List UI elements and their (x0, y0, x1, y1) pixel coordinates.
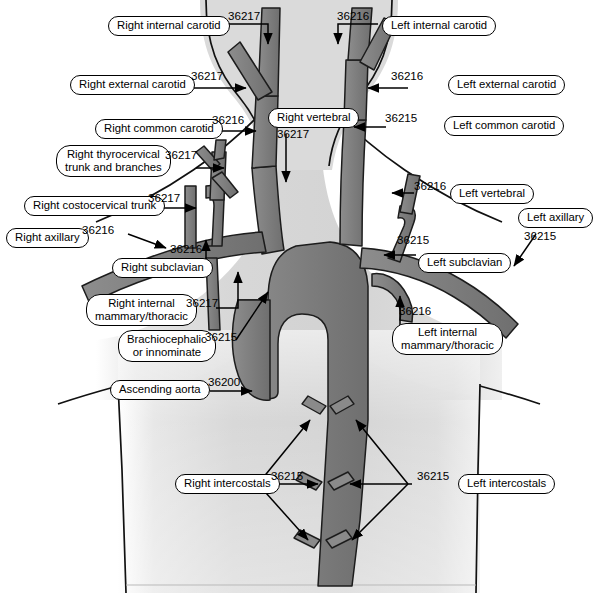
right-costocervical-vessel (185, 186, 196, 248)
code-ascending-aorta: 36200 (208, 376, 240, 388)
label-right-intercostals[interactable]: Right intercostals (175, 474, 280, 494)
code-right-external-carotid: 36217 (191, 70, 223, 82)
label-left-axillary[interactable]: Left axillary (518, 208, 593, 228)
code-left-vertebral: 36216 (414, 180, 446, 192)
label-right-internal-carotid[interactable]: Right internal carotid (108, 16, 230, 36)
label-left-subclavian[interactable]: Left subclavian (418, 253, 511, 273)
code-right-vertebral: 36217 (277, 128, 309, 140)
code-right-costocervical-trunk: 36217 (148, 192, 180, 204)
code-left-internal-carotid: 36216 (337, 10, 369, 22)
label-left-vertebral[interactable]: Left vertebral (450, 184, 534, 204)
label-right-thyrocervical-trunk[interactable]: Right thyrocervical trunk and branches (56, 145, 171, 177)
label-ascending-aorta[interactable]: Ascending aorta (110, 380, 210, 400)
label-right-costocervical-trunk[interactable]: Right costocervical trunk (24, 196, 165, 216)
label-brachiocephalic[interactable]: Brachiocephalic or innominate (118, 330, 216, 362)
code-right-common-carotid: 36216 (212, 114, 244, 126)
diagram-canvas: Right internal carotid 36217 Left intern… (0, 0, 595, 593)
left-common-carotid-vessel (340, 120, 366, 246)
label-right-common-carotid[interactable]: Right common carotid (95, 119, 223, 139)
label-right-subclavian[interactable]: Right subclavian (112, 258, 213, 278)
label-left-external-carotid[interactable]: Left external carotid (448, 75, 565, 95)
label-right-internal-mammary[interactable]: Right internal mammary/thoracic (86, 294, 197, 326)
code-right-axillary: 36216 (82, 224, 114, 236)
label-right-axillary[interactable]: Right axillary (6, 228, 89, 248)
code-right-thyrocervical-trunk: 36217 (165, 149, 197, 161)
code-right-internal-carotid: 36217 (228, 10, 260, 22)
code-brachiocephalic: 36215 (205, 331, 237, 343)
code-left-subclavian: 36215 (397, 234, 429, 246)
code-left-intercostals: 36215 (417, 470, 449, 482)
code-right-internal-mammary: 36217 (186, 297, 218, 309)
label-right-vertebral[interactable]: Right vertebral (268, 108, 359, 128)
code-left-axillary: 36215 (524, 230, 556, 242)
code-left-external-carotid: 36216 (391, 70, 423, 82)
code-left-internal-mammary: 36216 (399, 305, 431, 317)
label-left-intercostals[interactable]: Left intercostals (458, 474, 555, 494)
label-left-internal-mammary[interactable]: Left internal mammary/thoracic (392, 323, 503, 355)
code-right-subclavian: 36216 (170, 243, 202, 255)
right-thyrocervical-trunk (214, 140, 226, 160)
right-common-carotid-vessel (252, 96, 278, 168)
code-left-common-carotid: 36215 (385, 112, 417, 124)
code-right-intercostals: 36215 (271, 470, 303, 482)
label-right-external-carotid[interactable]: Right external carotid (70, 75, 195, 95)
label-left-internal-carotid[interactable]: Left internal carotid (382, 16, 496, 36)
label-left-common-carotid[interactable]: Left common carotid (444, 116, 564, 136)
